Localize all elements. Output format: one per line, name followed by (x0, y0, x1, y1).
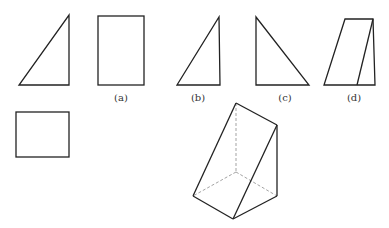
prism-3d (193, 103, 277, 219)
prism-edge (236, 103, 277, 125)
label-d: (d) (347, 92, 361, 103)
option-d-inner-line (357, 19, 373, 85)
prism-hidden-edge-left (193, 172, 236, 196)
option-c-triangle (256, 17, 309, 85)
prism-edge (233, 125, 277, 219)
label-b: (b) (191, 92, 205, 103)
top-view-rectangle (16, 112, 69, 157)
prism-edge (193, 196, 233, 219)
side-view-rectangle (98, 16, 144, 85)
prism-hidden-edge-right (236, 172, 277, 196)
label-c: (c) (278, 92, 291, 103)
three-view-diagram (0, 0, 389, 228)
option-d-trapezoid (324, 19, 375, 85)
prism-edge (233, 196, 277, 219)
label-a: (a) (114, 92, 128, 103)
prism-edge (193, 103, 236, 196)
option-b-triangle (177, 17, 220, 85)
front-view-triangle (19, 15, 69, 85)
